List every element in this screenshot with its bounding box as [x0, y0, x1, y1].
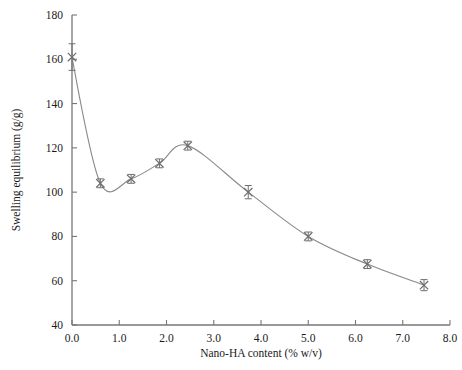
y-tick-label: 160 [46, 53, 64, 65]
x-tick-label: 1.0 [112, 332, 127, 344]
chart-plot-area: 406080100120140160180 0.01.02.03.04.05.0… [0, 0, 462, 370]
y-tick-label: 120 [46, 142, 64, 154]
y-tick-label: 140 [46, 98, 64, 110]
x-tick-label: 5.0 [301, 332, 316, 344]
x-tick-label: 3.0 [207, 332, 222, 344]
series-line-swelling [72, 57, 424, 285]
y-tick-label: 60 [52, 275, 64, 287]
x-axis-tick-labels: 0.01.02.03.04.05.06.07.08.0 [65, 332, 458, 344]
error-bar-group [69, 44, 428, 291]
chart-container: 406080100120140160180 0.01.02.03.04.05.0… [0, 0, 462, 370]
y-tick-label: 40 [52, 319, 64, 331]
data-point-marker-group [68, 53, 428, 289]
x-tick-label: 4.0 [254, 332, 269, 344]
y-tick-label: 180 [46, 9, 64, 21]
x-tick-label: 8.0 [443, 332, 458, 344]
y-tick-label: 80 [52, 230, 64, 242]
x-axis-title: Nano-HA content (% w/v) [200, 347, 322, 360]
y-axis-title: Swelling equilibrium (g/g) [10, 109, 23, 232]
x-tick-label: 7.0 [396, 332, 411, 344]
x-axis-tick-group [72, 320, 450, 325]
y-axis-tick-labels: 406080100120140160180 [46, 9, 64, 331]
x-tick-label: 0.0 [65, 332, 80, 344]
x-tick-label: 2.0 [159, 332, 174, 344]
x-tick-label: 6.0 [348, 332, 363, 344]
y-tick-label: 100 [46, 186, 64, 198]
